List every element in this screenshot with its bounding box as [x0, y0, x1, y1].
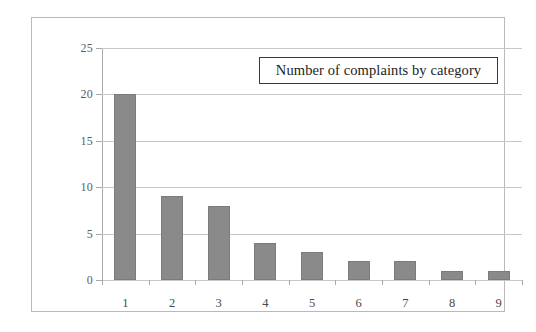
bar — [254, 243, 276, 280]
x-tick-label: 3 — [216, 296, 222, 311]
bar — [208, 206, 230, 280]
x-tick-mark — [149, 280, 150, 285]
y-tick-mark — [96, 187, 102, 188]
y-tick-label: 20 — [81, 87, 93, 102]
y-tick-label: 0 — [87, 273, 93, 288]
bar — [301, 252, 323, 280]
x-tick-mark — [429, 280, 430, 285]
bar — [488, 271, 510, 280]
y-tick-label: 25 — [81, 41, 93, 56]
x-tick-mark — [289, 280, 290, 285]
gridline — [102, 94, 522, 95]
x-tick-mark — [242, 280, 243, 285]
x-tick-label: 5 — [309, 296, 315, 311]
bar — [348, 261, 370, 280]
y-tick-mark — [96, 141, 102, 142]
bar — [161, 196, 183, 280]
y-tick-mark — [96, 48, 102, 49]
x-tick-mark — [335, 280, 336, 285]
x-tick-label: 6 — [356, 296, 362, 311]
gridline — [102, 141, 522, 142]
chart-title-box: Number of complaints by category — [259, 57, 498, 84]
x-tick-label: 1 — [122, 296, 128, 311]
x-tick-mark — [195, 280, 196, 285]
x-tick-label: 4 — [262, 296, 268, 311]
x-tick-mark — [102, 280, 103, 285]
y-tick-label: 10 — [81, 180, 93, 195]
x-tick-label: 9 — [496, 296, 502, 311]
x-tick-label: 2 — [169, 296, 175, 311]
y-tick-mark — [96, 94, 102, 95]
chart-frame: 0510152025 123456789 Number of complaint… — [31, 17, 505, 312]
x-tick-mark — [522, 280, 523, 285]
bar — [114, 94, 136, 280]
x-tick-label: 7 — [402, 296, 408, 311]
y-tick-label: 5 — [87, 226, 93, 241]
x-tick-mark — [475, 280, 476, 285]
gridline — [102, 280, 522, 281]
chart-title: Number of complaints by category — [276, 62, 481, 79]
x-tick-label: 8 — [449, 296, 455, 311]
bar — [441, 271, 463, 280]
gridline — [102, 187, 522, 188]
y-tick-label: 15 — [81, 133, 93, 148]
bar — [394, 261, 416, 280]
y-tick-mark — [96, 234, 102, 235]
x-tick-mark — [382, 280, 383, 285]
gridline — [102, 48, 522, 49]
